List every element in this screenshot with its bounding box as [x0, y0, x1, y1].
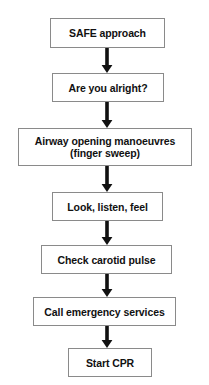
arrow-shaft [105, 166, 109, 185]
node-call-emergency-services: Call emergency services [33, 297, 176, 326]
flow-arrow-6 [100, 326, 114, 348]
node-label-check-carotid-pulse: Check carotid pulse [55, 254, 159, 266]
arrow-head [102, 289, 113, 297]
flow-arrow-5 [100, 274, 114, 297]
flow-arrow-1 [100, 48, 114, 73]
arrow-shaft [105, 102, 109, 121]
node-label-call-emergency-services: Call emergency services [41, 306, 167, 318]
arrow-head [102, 340, 113, 348]
node-label-airway-opening-manoeuvres: Airway opening manoeuvres (finger sweep) [32, 135, 178, 159]
arrow-shaft [105, 326, 109, 341]
node-label-safe-approach: SAFE approach [66, 27, 149, 39]
arrow-shaft [105, 221, 109, 238]
node-check-carotid-pulse: Check carotid pulse [41, 245, 172, 274]
arrow-head [102, 184, 113, 192]
node-safe-approach: SAFE approach [50, 18, 165, 48]
arrow-shaft [105, 48, 109, 66]
node-start-cpr: Start CPR [68, 348, 152, 377]
node-look-listen-feel: Look, listen, feel [52, 192, 163, 221]
node-are-you-alright: Are you alright? [52, 73, 164, 102]
flow-arrow-4 [100, 221, 114, 245]
node-airway-opening-manoeuvres: Airway opening manoeuvres (finger sweep) [18, 128, 192, 166]
arrow-shaft [105, 274, 109, 290]
arrow-head [102, 65, 113, 73]
flowchart-diagram: SAFE approachAre you alright?Airway open… [0, 0, 209, 385]
arrow-head [102, 120, 113, 128]
node-label-start-cpr: Start CPR [83, 357, 137, 369]
node-label-look-listen-feel: Look, listen, feel [64, 201, 150, 213]
flow-arrow-3 [100, 166, 114, 192]
arrow-head [102, 237, 113, 245]
node-label-are-you-alright: Are you alright? [66, 82, 151, 94]
flow-arrow-2 [100, 102, 114, 128]
